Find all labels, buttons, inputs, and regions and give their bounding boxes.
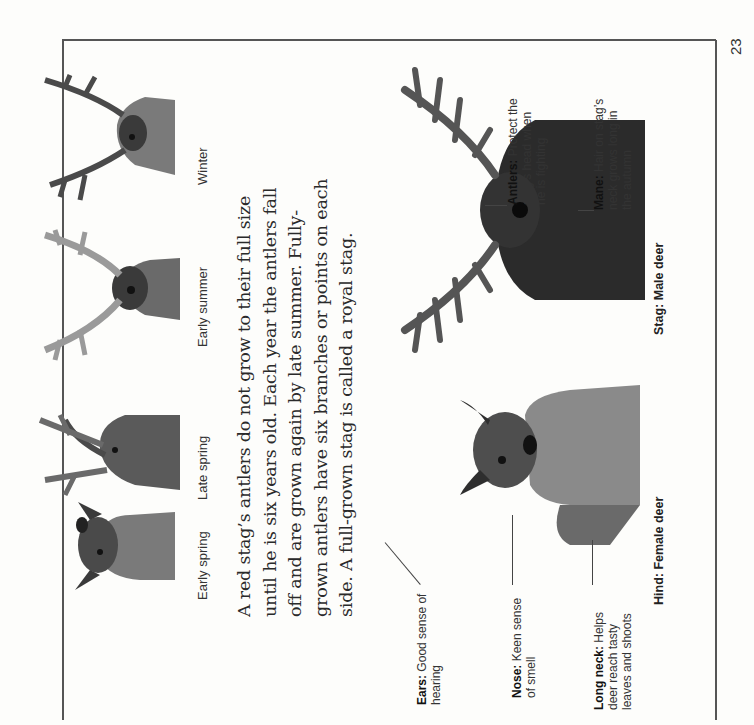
nose-label: Nose: Keen sense of smell [510,568,538,698]
season-label-late-spring: Late spring [195,436,210,500]
season-label-winter: Winter [195,147,210,185]
book-page: 23 Early spring Late spring Early summe [0,0,754,725]
hind-illustration [430,375,650,565]
deer-head-winter-illustration [35,75,180,205]
antler-growth-paragraph: A red stag’s antlers do not grow to thei… [232,137,360,617]
long-neck-desc-line-3: leaves and shoots [620,613,634,710]
frame-bottom-line [715,40,717,720]
frame-right-line [62,40,716,42]
season-label-early-spring: Early spring [195,531,210,600]
deer-head-early-spring-illustration [70,500,180,600]
nose-desc-line-1: Keen sense [510,598,524,661]
paragraph-line: until he is six years old. Each year the… [258,137,284,617]
antlers-label: Antlers: Protect the stag’s head when he… [506,75,548,205]
paragraph-line: off and are grown again by late summer. … [283,137,309,617]
antlers-leader-line [485,205,507,206]
mane-desc-line-2: neck grows long in [606,111,620,210]
paragraph-line: side. A full-grown stag is called a roya… [334,137,360,617]
ears-desc-line-1: Good sense of [415,594,429,672]
hind-caption: Hind: Female deer [652,497,666,605]
ears-desc-line-2: hearing [429,665,443,705]
mane-term: Mane: [592,175,606,210]
deer-head-early-summer-illustration [35,230,185,360]
antlers-desc-line-2: stag’s head when [520,112,534,205]
ears-leader-line [385,542,421,585]
deer-head-late-spring-illustration [35,400,185,510]
season-label-early-summer: Early summer [195,267,210,347]
mane-desc-line-3: the autumn [620,150,634,210]
antlers-desc-line-1: Protect the [506,98,520,156]
mane-leader-line [578,210,594,211]
stag-caption: Stag: Male deer [652,243,666,335]
long-neck-desc-line-1: Helps [592,612,606,643]
nose-term: Nose: [510,665,524,698]
antlers-term: Antlers: [506,160,520,205]
long-neck-desc-line-2: deer reach tasty [606,624,620,710]
long-neck-leader-line [592,540,593,585]
mane-desc-line-1: Hair on stag’s [592,99,606,172]
ears-term: Ears: [415,675,429,705]
mane-label: Mane: Hair on stag’s neck grows long in … [592,80,634,210]
long-neck-label: Long neck: Helps deer reach tasty leaves… [592,580,634,710]
long-neck-term: Long neck: [592,646,606,710]
nose-desc-line-2: of smell [524,657,538,698]
paragraph-line: A red stag’s antlers do not grow to thei… [232,137,258,617]
ears-label: Ears: Good sense of hearing [415,575,443,705]
nose-leader-line [512,515,513,585]
antlers-desc-line-3: he is fighting [534,138,548,205]
paragraph-line: grown antlers have six branches or point… [309,137,335,617]
page-number: 23 [727,38,744,55]
